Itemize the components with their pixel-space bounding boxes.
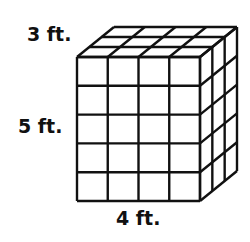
width-label: 4 ft.: [116, 207, 160, 229]
depth-label: 3 ft.: [27, 23, 71, 45]
height-label: 5 ft.: [18, 115, 62, 137]
